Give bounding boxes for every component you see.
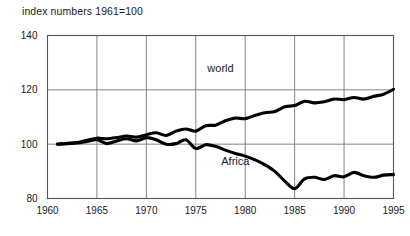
- series-line-world: [57, 89, 393, 144]
- annotation-label-africa: Africa: [221, 155, 250, 167]
- x-tick-label: 1980: [234, 205, 257, 216]
- plot-frame: [48, 36, 394, 199]
- x-tick-label: 1960: [36, 205, 59, 216]
- axis-frame: [48, 36, 394, 199]
- y-axis-tick-labels: 80100120140: [21, 30, 38, 204]
- x-tick-label: 1990: [333, 205, 356, 216]
- chart-plot-svg: 80100120140 1960196519701975198019851990…: [0, 0, 410, 236]
- data-series: [57, 89, 393, 188]
- y-tick-label: 80: [26, 193, 38, 204]
- chart-container: index numbers 1961=100 80100120140 19601…: [0, 0, 410, 236]
- y-tick-label: 100: [21, 139, 38, 150]
- x-tick-label: 1965: [86, 205, 109, 216]
- y-tick-label: 140: [21, 30, 38, 41]
- x-tick-label: 1975: [185, 205, 208, 216]
- x-tick-label: 1985: [284, 205, 307, 216]
- x-tick-label: 1995: [382, 205, 405, 216]
- y-tick-label: 120: [21, 84, 38, 95]
- gridlines: [48, 36, 394, 199]
- annotation-label-world: world: [206, 62, 233, 74]
- x-axis-tick-labels: 19601965197019751980198519901995: [36, 205, 405, 216]
- x-tick-label: 1970: [135, 205, 158, 216]
